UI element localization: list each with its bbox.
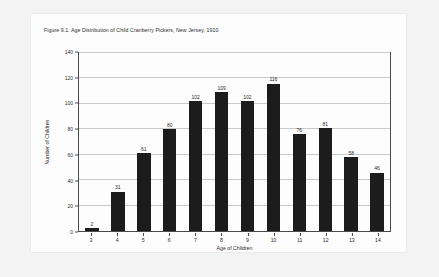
y-axis-tick-label: 0 (70, 229, 73, 235)
bar[interactable]: 31 (111, 192, 124, 231)
y-axis-tick-label: 120 (65, 75, 73, 81)
bar-slot: 76 (286, 53, 312, 231)
x-axis-ticks: 34567891011121314 (78, 233, 391, 245)
x-axis-tick-mark (117, 233, 118, 236)
x-axis-tick-label: 9 (234, 233, 260, 245)
x-axis-tick-label: 8 (208, 233, 234, 245)
x-axis-tick-mark (352, 233, 353, 236)
screenshot-root: Figure 9.1. Age Distribution of Child Cr… (0, 0, 439, 277)
bar[interactable]: 80 (163, 129, 176, 231)
bar-slot: 61 (131, 53, 157, 231)
x-axis-tick-label: 6 (156, 233, 182, 245)
bar[interactable]: 2 (85, 228, 98, 231)
bar-value-label: 81 (322, 121, 328, 127)
y-axis-ticks: 020406080100120140 (31, 52, 78, 232)
bar-value-label: 76 (297, 127, 303, 133)
bar[interactable]: 81 (319, 128, 332, 231)
x-axis-tick-label: 14 (365, 233, 391, 245)
y-axis-tick-label: 60 (67, 152, 73, 158)
x-axis-tick-mark (300, 233, 301, 236)
x-axis-tick-mark (248, 233, 249, 236)
bar-value-label: 61 (141, 146, 147, 152)
x-axis-tick-label: 4 (104, 233, 130, 245)
bar-value-label: 116 (269, 76, 277, 82)
y-axis-tick-label: 40 (67, 178, 73, 184)
bar[interactable]: 58 (344, 157, 357, 231)
document-page: Figure 9.1. Age Distribution of Child Cr… (31, 14, 406, 252)
bar[interactable]: 61 (137, 153, 150, 231)
bar-slot: 58 (338, 53, 364, 231)
x-axis-tick-label: 7 (182, 233, 208, 245)
x-axis-tick-label: 3 (78, 233, 104, 245)
x-axis-tick-mark (221, 233, 222, 236)
bar-slot: 81 (312, 53, 338, 231)
plot-area: 231618010210910211676815846 (78, 52, 391, 232)
bar-value-label: 109 (217, 85, 225, 91)
x-axis-title: Age of Children (78, 245, 391, 251)
bar[interactable]: 76 (293, 134, 306, 231)
x-axis-tick-label: 10 (261, 233, 287, 245)
bar-slot: 109 (209, 53, 235, 231)
x-axis-tick-mark (274, 233, 275, 236)
y-axis-tick-label: 100 (65, 100, 73, 106)
x-axis-tick-mark (195, 233, 196, 236)
bar[interactable]: 116 (267, 84, 280, 231)
bar-value-label: 46 (374, 165, 380, 171)
bar-value-label: 2 (91, 221, 94, 227)
bar-slot: 116 (260, 53, 286, 231)
bar[interactable]: 46 (370, 173, 383, 231)
x-axis-tick-label: 12 (313, 233, 339, 245)
x-axis-tick-mark (143, 233, 144, 236)
bar[interactable]: 102 (189, 101, 202, 231)
bar-slot: 102 (183, 53, 209, 231)
x-axis-tick-mark (169, 233, 170, 236)
x-axis-tick-label: 5 (130, 233, 156, 245)
bar-slot: 102 (235, 53, 261, 231)
y-axis-tick-label: 20 (67, 203, 73, 209)
y-axis-tick-label: 80 (67, 126, 73, 132)
bar-value-label: 102 (191, 94, 199, 100)
x-axis-tick-mark (91, 233, 92, 236)
x-axis-tick-label: 11 (287, 233, 313, 245)
bars-container: 231618010210910211676815846 (79, 53, 390, 231)
bar-chart: Number of Children 020406080100120140 23… (31, 14, 406, 252)
bar-value-label: 31 (115, 184, 121, 190)
x-axis-tick-label: 13 (339, 233, 365, 245)
bar-value-label: 80 (167, 122, 173, 128)
x-axis-tick-mark (378, 233, 379, 236)
bar-slot: 31 (105, 53, 131, 231)
bar-slot: 2 (79, 53, 105, 231)
y-axis-tick-label: 140 (65, 49, 73, 55)
bar[interactable]: 109 (215, 92, 228, 231)
bar-value-label: 102 (243, 94, 251, 100)
bar-slot: 80 (157, 53, 183, 231)
x-axis-tick-mark (326, 233, 327, 236)
bar[interactable]: 102 (241, 101, 254, 231)
bar-slot: 46 (364, 53, 390, 231)
bar-value-label: 58 (348, 150, 354, 156)
